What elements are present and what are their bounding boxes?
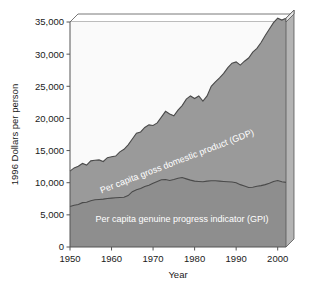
y-axis-tick-label: 20,000 <box>35 113 64 124</box>
x-axis-tick-label: 2000 <box>267 253 288 264</box>
y-axis-title: 1996 Dollars per person <box>9 84 20 185</box>
y-axis-tick-label: 5,000 <box>40 209 64 220</box>
chart-container: 05,00010,00015,00020,00025,00030,00035,0… <box>0 0 324 296</box>
gpi-series-label: Per capita genuine progress indicator (G… <box>95 214 268 224</box>
y-axis-tick-label: 15,000 <box>35 145 64 156</box>
chart-side-panel <box>286 10 294 247</box>
y-axis-tick-label: 35,000 <box>35 16 64 27</box>
y-axis-tick-label: 30,000 <box>35 49 64 60</box>
x-axis-title: Year <box>168 269 187 280</box>
x-axis-tick-label: 1980 <box>184 253 205 264</box>
x-axis-tick-label: 1950 <box>59 253 80 264</box>
y-axis-tick-label: 25,000 <box>35 81 64 92</box>
x-axis-tick-label: 1990 <box>226 253 247 264</box>
y-axis-tick-label: 0 <box>59 241 64 252</box>
chart-top-panel <box>70 14 294 22</box>
y-axis-tick-label: 10,000 <box>35 177 64 188</box>
x-axis-tick-label: 1970 <box>143 253 164 264</box>
gdp-gpi-area-chart: 05,00010,00015,00020,00025,00030,00035,0… <box>0 0 324 296</box>
x-axis-tick-label: 1960 <box>101 253 122 264</box>
